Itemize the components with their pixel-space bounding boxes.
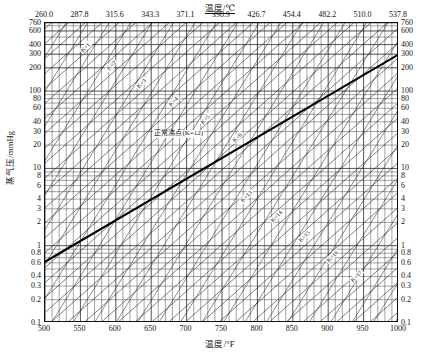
tick-label: 200	[401, 62, 439, 71]
tick-label: 950	[357, 324, 369, 333]
tick-label: 0.3	[401, 281, 439, 290]
tick-label: 0.1	[4, 318, 41, 327]
tick-label: 200	[4, 62, 41, 71]
tick-label: 500	[38, 324, 50, 333]
tick-label: 0.1	[401, 318, 439, 327]
tick-label: 0.8	[401, 248, 439, 257]
tick-label: 343.3	[141, 10, 159, 19]
tick-label: 8	[4, 170, 41, 179]
tick-label: 8	[401, 170, 439, 179]
tick-label: 400	[401, 39, 439, 48]
tick-label: 30	[4, 126, 41, 135]
tick-label: 40	[4, 116, 41, 125]
tick-label: 482.2	[318, 10, 336, 19]
boiling-point-annotation: 正常沸点(K=12)	[153, 130, 204, 138]
tick-label: 0.4	[401, 271, 439, 280]
tick-label: 20	[401, 140, 439, 149]
tick-label: 700	[180, 324, 192, 333]
tick-label: 60	[4, 103, 41, 112]
tick-label: 2	[4, 217, 41, 226]
tick-label: 1000	[390, 324, 406, 333]
tick-label: 600	[4, 25, 41, 34]
tick-label: 300	[4, 49, 41, 58]
bottom-axis-title-text: 温度/°F	[205, 339, 235, 349]
tick-label: 900	[321, 324, 333, 333]
tick-label: 30	[401, 126, 439, 135]
tick-label: 300	[401, 49, 439, 58]
tick-label: 371.1	[177, 10, 195, 19]
tick-label: 0.3	[4, 281, 41, 290]
tick-label: 4	[4, 194, 41, 203]
tick-label: 6	[401, 180, 439, 189]
tick-label: 0.6	[401, 257, 439, 266]
tick-label: 315.6	[106, 10, 124, 19]
tick-label: 0.8	[4, 248, 41, 257]
tick-label: 398.9	[212, 10, 230, 19]
plot-area: K=1K=2K=3K=4K=5K=6K=13K=14K=15K=16K=17 正…	[44, 22, 398, 322]
grid-and-lines	[45, 23, 398, 322]
tick-label: 454.4	[283, 10, 301, 19]
tick-label: 6	[4, 180, 41, 189]
tick-label: 287.8	[70, 10, 88, 19]
tick-label: 400	[4, 39, 41, 48]
tick-label: 80	[4, 93, 41, 102]
tick-label: 3	[401, 203, 439, 212]
tick-label: 600	[401, 25, 439, 34]
tick-label: 550	[73, 324, 85, 333]
chart-canvas: 温度/℃ 260.0287.8315.6343.3371.1398.9426.7…	[0, 0, 440, 354]
tick-label: 40	[401, 116, 439, 125]
tick-label: 0.2	[4, 294, 41, 303]
tick-label: 0.6	[4, 257, 41, 266]
tick-label: 650	[144, 324, 156, 333]
tick-label: 510.0	[354, 10, 372, 19]
tick-label: 60	[401, 103, 439, 112]
tick-label: 4	[401, 194, 439, 203]
tick-label: 600	[109, 324, 121, 333]
tick-label: 20	[4, 140, 41, 149]
tick-label: 800	[250, 324, 262, 333]
tick-label: 80	[401, 93, 439, 102]
tick-label: 850	[286, 324, 298, 333]
bottom-axis-title: 温度/°F	[0, 337, 440, 349]
tick-label: 750	[215, 324, 227, 333]
tick-label: 0.4	[4, 271, 41, 280]
tick-label: 426.7	[247, 10, 265, 19]
tick-label: 0.2	[401, 294, 439, 303]
tick-label: 2	[401, 217, 439, 226]
tick-label: 3	[4, 203, 41, 212]
